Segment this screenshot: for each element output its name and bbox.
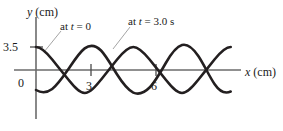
x-axis-symbol: x — [245, 65, 250, 79]
curve-label-t3-suffix: = 3.0 s — [142, 15, 174, 27]
y-tick-label: 3.5 — [3, 41, 18, 53]
origin-label: 0 — [18, 77, 24, 89]
x-axis-unit: (cm) — [253, 65, 276, 79]
y-axis-unit: (cm) — [35, 5, 58, 19]
leader-line-t0 — [44, 31, 61, 52]
curve-label-t0-suffix: = 0 — [74, 20, 91, 32]
wave-figure: y (cm) x (cm) 3.5 0 3 6 at t = 0 at t = … — [0, 0, 283, 131]
curve-label-t3: at t = 3.0 s — [128, 16, 174, 27]
x-tick-label-6: 6 — [151, 80, 157, 92]
x-tick-label-3: 3 — [86, 80, 92, 92]
y-axis-symbol: y — [27, 5, 32, 19]
curve-label-t0-prefix: at — [60, 20, 71, 32]
wave-curve-t3 — [36, 45, 231, 94]
y-axis-label: y (cm) — [27, 6, 58, 18]
curve-label-t3-prefix: at — [128, 15, 139, 27]
curve-label-t0: at t = 0 — [60, 21, 91, 32]
x-axis-label: x (cm) — [245, 66, 276, 78]
leader-line-t3 — [113, 27, 130, 49]
